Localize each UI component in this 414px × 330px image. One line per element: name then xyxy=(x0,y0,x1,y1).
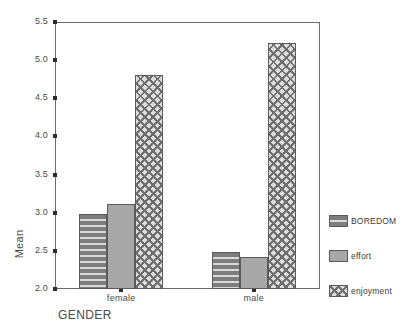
legend-item-effort[interactable]: effort xyxy=(329,249,371,262)
legend-swatch-boredom xyxy=(329,215,348,227)
legend-label-effort: effort xyxy=(351,251,371,261)
y-axis-tick-label: 4.5 xyxy=(16,93,48,102)
x-axis-category-label-female: female xyxy=(81,293,161,303)
y-axis-tick-label: 2.0 xyxy=(16,284,48,293)
y-axis-tick-label: 4.0 xyxy=(16,131,48,140)
y-axis-tick-label: 5.0 xyxy=(16,55,48,64)
legend-item-enjoyment[interactable]: enjoyment xyxy=(329,284,392,297)
x-axis-category-label-male: male xyxy=(214,293,294,303)
y-axis-tick xyxy=(53,96,57,100)
legend-label-boredom: BOREDOM xyxy=(351,216,396,226)
bar-enjoyment-male xyxy=(268,43,296,289)
y-axis-tick xyxy=(53,211,57,215)
y-axis-tick-label: 5.5 xyxy=(16,17,48,26)
y-axis-tick xyxy=(53,287,57,291)
y-axis-title: Mean xyxy=(13,216,25,272)
bar-enjoyment-female xyxy=(135,75,163,289)
legend-item-boredom[interactable]: BOREDOM xyxy=(329,214,396,227)
y-axis-tick xyxy=(53,20,57,24)
y-axis-tick xyxy=(53,58,57,62)
y-axis-tick xyxy=(53,249,57,253)
y-axis-tick-label: 3.5 xyxy=(16,170,48,179)
bar-chart: 5.55.04.54.03.53.02.52.0 Mean GENDER fem… xyxy=(0,0,414,330)
legend-swatch-enjoyment xyxy=(329,285,348,297)
legend-label-enjoyment: enjoyment xyxy=(351,286,392,296)
bar-boredom-female xyxy=(79,214,107,289)
y-axis-tick xyxy=(53,173,57,177)
bar-effort-female xyxy=(107,204,135,289)
bar-boredom-male xyxy=(212,252,240,289)
bar-effort-male xyxy=(240,257,268,289)
legend-swatch-effort xyxy=(329,250,348,262)
x-axis-title: GENDER xyxy=(58,308,112,322)
y-axis-tick xyxy=(53,134,57,138)
